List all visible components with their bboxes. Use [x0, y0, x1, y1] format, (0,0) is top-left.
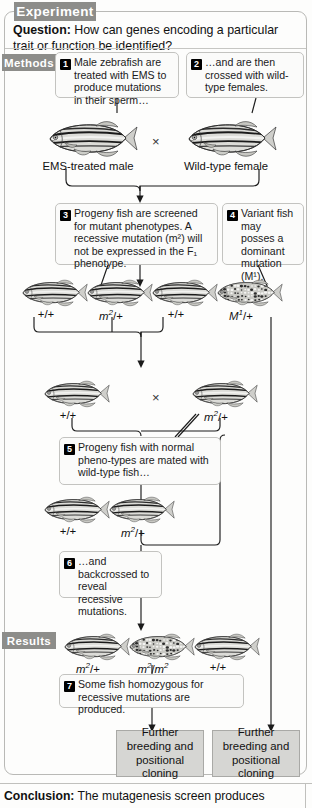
section-tab-methods: Methods: [2, 54, 56, 71]
caption-ems-treated-male: EMS-treated male: [36, 160, 140, 172]
step-callout-7: 7Some fish homozygous for recessive muta…: [59, 674, 244, 708]
conclusion-text: The mutagenesis screen produces: [78, 789, 265, 803]
genotype-f1-1: +/+: [14, 308, 78, 320]
fish-cross2-left: [36, 377, 110, 411]
fish-cross3-right: [101, 493, 175, 527]
question-block: Question: How can genes encoding a parti…: [13, 23, 293, 54]
genotype-result-3: +/+: [186, 661, 250, 673]
step-text-7: Some fish homozygous for recessive mutat…: [78, 678, 236, 716]
outcome-box-left: Further breeding and positional cloning: [116, 730, 204, 777]
step-callout-1: 1Male zebrafish are treated with EMS to …: [55, 52, 179, 98]
question-label: Question:: [13, 23, 71, 37]
genotype-cross2-left: +/+: [36, 409, 100, 421]
genotype-f1-2: m2/+: [79, 308, 143, 322]
experiment-figure: Experiment Methods Results Question: How…: [0, 0, 312, 808]
step-callout-5: 5Progeny fish with normal pheno-types ar…: [59, 437, 221, 485]
step-callout-6: 6…and backcrossed to reveal recessive mu…: [59, 551, 162, 598]
conclusion-divider: [0, 783, 312, 784]
step-callout-3: 3Progeny fish are screened for mutant ph…: [55, 203, 218, 265]
genotype-result-2: m2/m2: [121, 661, 185, 675]
step-badge-6: 6: [64, 558, 75, 569]
step-callout-4: 4Variant fish may posses a dominant muta…: [222, 203, 304, 265]
fish-f1-4: [209, 276, 283, 310]
section-tab-results: Results: [2, 632, 56, 649]
fish-wild-type-female: [175, 116, 279, 162]
step-text-5: Progeny fish with normal pheno-types are…: [78, 441, 213, 479]
fish-f1-2: [79, 276, 153, 310]
step-badge-3: 3: [60, 210, 71, 221]
step-text-1: Male zebrafish are treated with EMS to p…: [74, 56, 171, 106]
genotype-cross2-right: m2/+: [184, 409, 248, 423]
conclusion-block: Conclusion: The mutagenesis screen produ…: [4, 789, 304, 804]
fish-ems-treated-male: [36, 116, 140, 162]
fish-f1-3: [144, 276, 218, 310]
step-text-2: …and are then crossed with wild-type fem…: [205, 56, 296, 94]
step-badge-7: 7: [64, 681, 75, 692]
conclusion-label: Conclusion:: [4, 789, 74, 803]
fish-cross3-left: [36, 493, 110, 527]
genotype-f1-3: +/+: [144, 308, 208, 320]
outcome-box-right: Further breeding and positional cloning: [212, 730, 300, 777]
step-badge-2: 2: [191, 59, 202, 70]
step-badge-1: 1: [60, 59, 71, 70]
fish-cross2-right: [184, 377, 258, 411]
fish-f1-1: [14, 276, 88, 310]
step-callout-2: 2…and are then crossed with wild-type fe…: [186, 52, 304, 98]
fish-result-1: [56, 630, 130, 664]
step-text-6: …and backcrossed to reveal recessive mut…: [78, 555, 154, 618]
genotype-result-1: m2/+: [56, 661, 120, 675]
step-badge-4: 4: [227, 210, 238, 221]
caption-wild-type-female: Wild-type female: [174, 160, 278, 172]
cross-symbol-parents: ×: [152, 134, 160, 149]
step-text-4: Variant fish may posses a dominant mutat…: [241, 207, 296, 283]
fish-result-3: [186, 630, 260, 664]
step-badge-5: 5: [64, 444, 75, 455]
genotype-f1-4: M1/+: [209, 308, 273, 322]
fish-result-2: [121, 630, 195, 664]
conclusion-side-border: [305, 784, 306, 808]
question-divider: [5, 48, 306, 49]
genotype-cross3-right: m2/+: [101, 525, 165, 539]
section-tab-experiment: Experiment: [14, 2, 96, 21]
genotype-cross3-left: +/+: [36, 525, 100, 537]
step-text-3: Progeny fish are screened for mutant phe…: [74, 207, 210, 270]
cross-symbol-second: ×: [152, 390, 160, 405]
